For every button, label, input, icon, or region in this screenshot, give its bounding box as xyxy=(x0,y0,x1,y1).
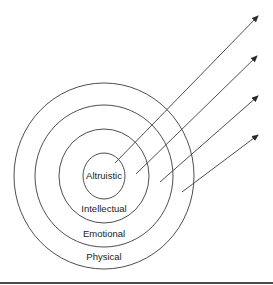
label-intellectual: Intellectual xyxy=(81,203,126,214)
arrow-3 xyxy=(160,96,258,182)
label-emotional: Emotional xyxy=(83,228,125,239)
arrows xyxy=(115,16,258,192)
label-physical: Physical xyxy=(86,251,121,262)
concentric-needs-diagram: Altruistic Intellectual Emotional Physic… xyxy=(0,0,273,285)
labels: Altruistic Intellectual Emotional Physic… xyxy=(81,170,126,262)
arrow-2 xyxy=(136,56,257,174)
label-altruistic: Altruistic xyxy=(86,170,122,181)
